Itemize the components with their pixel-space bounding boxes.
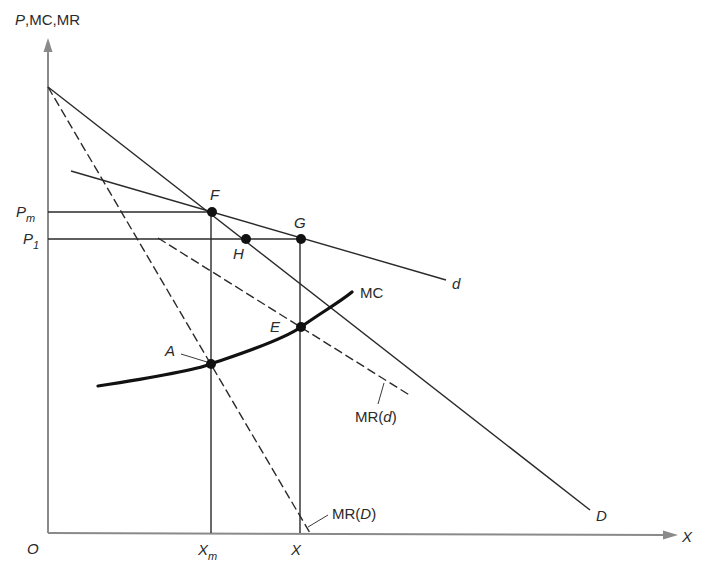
curve-label-D: D bbox=[596, 507, 607, 524]
point-label-F: F bbox=[210, 186, 220, 203]
y-axis-label: P,MC,MR bbox=[15, 11, 80, 28]
origin-label: O bbox=[27, 540, 39, 557]
point-label-G: G bbox=[294, 214, 306, 231]
point-label-A: A bbox=[164, 342, 175, 359]
x-axis bbox=[48, 531, 678, 540]
mr-D-leader bbox=[308, 515, 328, 527]
point-A bbox=[206, 359, 216, 369]
y-axis-arrow-icon bbox=[44, 38, 53, 52]
marginal-revenue-curve-MR-D bbox=[48, 87, 310, 533]
point-H bbox=[241, 234, 251, 244]
curve-label-MR-d: MR(d) bbox=[355, 408, 397, 425]
demand-curve-D bbox=[48, 87, 590, 510]
point-F bbox=[207, 207, 217, 217]
x-axis-label: X bbox=[681, 528, 693, 545]
curve-label-d: d bbox=[452, 275, 461, 292]
marginal-revenue-curve-MR-d bbox=[158, 238, 411, 396]
marginal-cost-curve-MC bbox=[98, 292, 352, 386]
quantity-label-x: X bbox=[290, 541, 302, 558]
mr-d-leader bbox=[378, 383, 384, 404]
demand-curve-d bbox=[71, 171, 446, 280]
point-label-E: E bbox=[270, 318, 281, 335]
y-axis bbox=[44, 38, 53, 533]
price-label-pm: Pm bbox=[16, 203, 35, 224]
point-G bbox=[296, 234, 306, 244]
curve-label-MC: MC bbox=[360, 284, 383, 301]
curve-label-MR-D: MR(D) bbox=[332, 505, 376, 522]
x-axis-arrow-icon bbox=[663, 531, 678, 540]
point-E bbox=[296, 322, 306, 332]
point-label-H: H bbox=[233, 245, 244, 262]
monopolistic-competition-diagram: P,MC,MR X O F G H E A Pm P1 Xm X d D MC … bbox=[0, 0, 715, 576]
price-label-p1: P1 bbox=[23, 230, 39, 251]
point-A-leader bbox=[181, 354, 207, 362]
quantity-label-xm: Xm bbox=[197, 541, 217, 562]
